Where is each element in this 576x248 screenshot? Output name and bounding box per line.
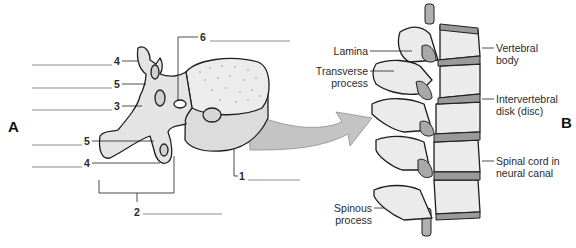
label-transverse-process: Transverse process [316, 65, 368, 89]
label-number-3: 3 [114, 100, 120, 112]
label-number-5-lower: 5 [84, 135, 90, 147]
label-lamina: Lamina [334, 45, 368, 57]
label-cord-line2: neural canal [496, 167, 560, 179]
label-vertebral-body: Vertebral body [496, 42, 538, 66]
label-spinous-process: Spinous process [334, 202, 372, 226]
label-number-5-upper: 5 [114, 78, 120, 90]
label-intervertebral-disk: Intervertebral disk (disc) [496, 93, 558, 117]
spinal-cord-top [425, 4, 434, 24]
label-vertebral-line1: Vertebral [496, 42, 538, 54]
label-number-6: 6 [200, 31, 206, 43]
vertebra-a [99, 47, 269, 163]
label-disk-line1: Intervertebral [496, 93, 558, 105]
label-number-1: 1 [239, 170, 245, 182]
label-vertebral-line2: body [496, 54, 538, 66]
label-transverse-line1: Transverse [316, 65, 368, 77]
label-transverse-line2: process [316, 77, 368, 89]
label-spinous-line1: Spinous [334, 202, 372, 214]
label-number-4-lower: 4 [84, 157, 90, 169]
label-disk-line2: disk (disc) [496, 105, 558, 117]
panel-label-a: A [8, 118, 19, 135]
label-number-4-upper: 4 [114, 55, 120, 67]
label-spinous-line2: process [334, 214, 372, 226]
panel-label-b: B [561, 114, 572, 131]
label-spinal-cord: Spinal cord in neural canal [496, 155, 560, 179]
label-number-2: 2 [134, 206, 140, 218]
diagram-artwork [0, 0, 576, 248]
label-cord-line1: Spinal cord in [496, 155, 560, 167]
